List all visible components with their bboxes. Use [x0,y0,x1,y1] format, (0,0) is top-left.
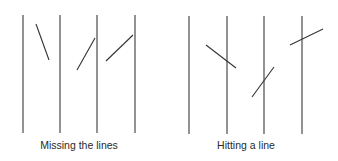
panel-hitting-a-line [189,16,323,134]
label-missing-the-lines: Missing the lines [40,139,118,151]
needle [77,38,95,70]
needle [106,35,133,61]
needle [290,29,323,45]
label-hitting-a-line: Hitting a line [217,139,275,151]
needle [206,45,236,68]
buffon-needle-diagram [0,0,338,161]
needle [36,24,49,60]
needle [252,67,274,97]
panel-missing-the-lines [23,15,135,133]
